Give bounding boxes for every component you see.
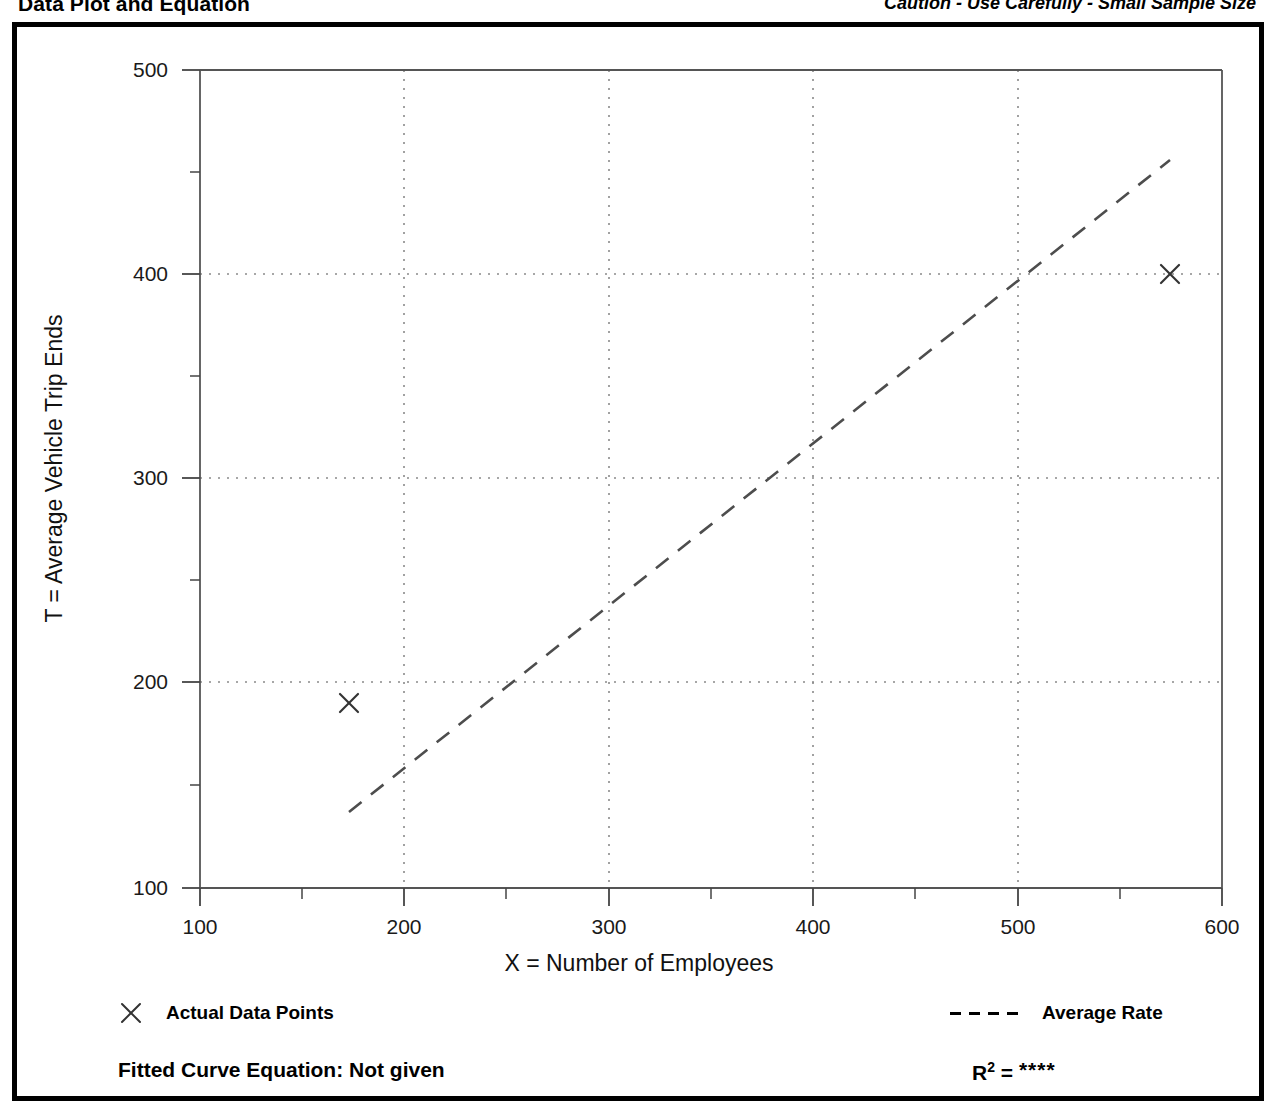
- chart-area: 500 400 300 200 100 100 200 300 400 500 …: [0, 0, 1278, 1105]
- r-symbol: R: [972, 1061, 987, 1084]
- scatter-plot-svg: [0, 0, 1278, 1105]
- x-tick-label-600: 600: [1204, 915, 1239, 939]
- x-tick-label-100: 100: [182, 915, 217, 939]
- r-exponent: 2: [987, 1059, 995, 1075]
- x-axis-title: X = Number of Employees: [0, 950, 1278, 977]
- x-tick-label-400: 400: [795, 915, 830, 939]
- dashed-line-icon: [950, 1012, 1022, 1015]
- y-axis-title: T = Average Vehicle Trip Ends: [41, 249, 68, 689]
- y-tick-label-100: 100: [86, 876, 168, 900]
- plot-frame: [200, 70, 1222, 888]
- equation-row: Fitted Curve Equation: Not given R2 = **…: [0, 1058, 1278, 1098]
- y-tick-label-500: 500: [86, 58, 168, 82]
- r-equals: =: [995, 1061, 1019, 1084]
- fitted-curve-equation: Fitted Curve Equation: Not given: [118, 1058, 445, 1082]
- x-marker-icon: [118, 1000, 144, 1026]
- data-point-marker: [340, 694, 358, 712]
- r-squared-value: R2 = ****: [972, 1058, 1056, 1085]
- x-tick-label-300: 300: [591, 915, 626, 939]
- y-tick-label-200: 200: [86, 670, 168, 694]
- legend-label-data-points: Actual Data Points: [166, 1002, 334, 1024]
- x-axis-minor-ticks: [302, 888, 1120, 899]
- x-tick-label-500: 500: [1000, 915, 1035, 939]
- legend-item-data-points: Actual Data Points: [118, 998, 334, 1028]
- gridlines: [200, 70, 1222, 888]
- legend-label-average-rate: Average Rate: [1042, 1002, 1163, 1024]
- r-squared-stars: ****: [1019, 1058, 1056, 1081]
- x-tick-label-200: 200: [386, 915, 421, 939]
- legend-item-average-rate: Average Rate: [950, 998, 1163, 1028]
- y-tick-label-300: 300: [86, 466, 168, 490]
- legend: Actual Data Points Average Rate: [0, 998, 1278, 1038]
- y-axis-major-ticks: [182, 70, 200, 888]
- y-tick-label-400: 400: [86, 262, 168, 286]
- average-rate-trendline: [349, 160, 1170, 812]
